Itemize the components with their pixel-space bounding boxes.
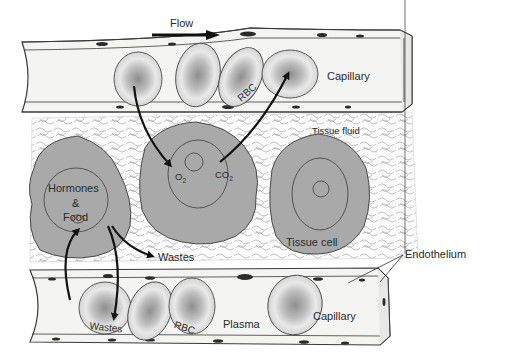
bottom-capillary [30, 268, 390, 346]
endothelial-nucleus [313, 277, 323, 281]
endothelial-nucleus [317, 33, 327, 37]
endothelial-nucleus [108, 339, 116, 342]
endothelial-nucleus [103, 274, 113, 278]
tissue-cell-label: Tissue cell [286, 237, 338, 248]
red-blood-cell [114, 52, 162, 106]
endothelial-nucleus [299, 340, 309, 344]
endothelial-nucleus [237, 274, 253, 280]
endothelial-nucleus [96, 42, 108, 46]
hormones-food-line2: & [72, 198, 79, 209]
co2-label: CO2 [215, 170, 233, 183]
plasma-label: Plasma [223, 319, 260, 330]
wastes-mid-label: Wastes [158, 252, 194, 263]
hormones-food-line3: Food [63, 212, 88, 223]
endothelial-nucleus [341, 341, 349, 344]
endothelial-nucleus [292, 105, 300, 108]
flow-label: Flow [170, 18, 193, 29]
endothelial-nucleus [345, 106, 351, 109]
endothelium-label: Endothelium [405, 249, 466, 260]
endothelial-nucleus [145, 276, 155, 280]
endothelial-nucleus [383, 298, 386, 306]
endothelial-nucleus [168, 42, 176, 45]
endothelial-nucleus [356, 35, 364, 38]
endothelial-nucleus [359, 279, 365, 282]
endothelial-nucleus [240, 32, 256, 37]
hormones-food-line1: Hormones [48, 183, 99, 194]
tissue-fluid-label: Tissue fluid [312, 126, 360, 136]
endothelial-nucleus [116, 105, 124, 108]
endothelial-nucleus [48, 277, 56, 280]
capillary-top-label: Capillary [327, 71, 370, 82]
endothelial-nucleus [52, 338, 60, 341]
o2-label: O2 [175, 172, 186, 185]
endothelial-nucleus [213, 339, 223, 343]
red-blood-cell [262, 50, 318, 98]
capillary-bottom-label: Capillary [313, 311, 356, 322]
